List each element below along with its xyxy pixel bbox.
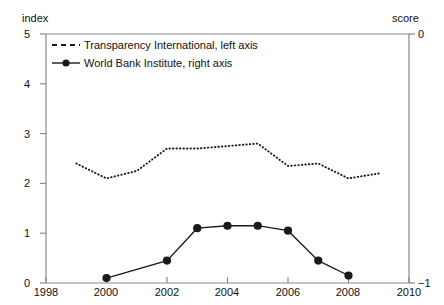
data-point-marker — [314, 256, 322, 264]
data-point-marker — [344, 271, 352, 279]
legend-swatch-world-bank-institute — [52, 59, 80, 66]
chart-container: index score 5 4 3 2 1 0 0 −1 1998 2000 2… — [0, 0, 444, 305]
data-point-marker — [284, 227, 292, 235]
data-point-marker — [102, 274, 110, 282]
series-transparency-international — [76, 144, 379, 179]
data-point-marker — [223, 222, 231, 230]
data-point-marker — [193, 224, 201, 232]
left-axis-ticks — [40, 34, 46, 283]
right-axis-ticks — [409, 34, 415, 283]
series-world-bank-institute — [102, 222, 352, 282]
x-axis-ticks — [46, 277, 409, 283]
data-point-marker — [254, 222, 262, 230]
series-line — [76, 144, 379, 179]
data-point-marker — [163, 256, 171, 264]
series-line — [107, 226, 349, 278]
plot-area — [0, 0, 444, 305]
